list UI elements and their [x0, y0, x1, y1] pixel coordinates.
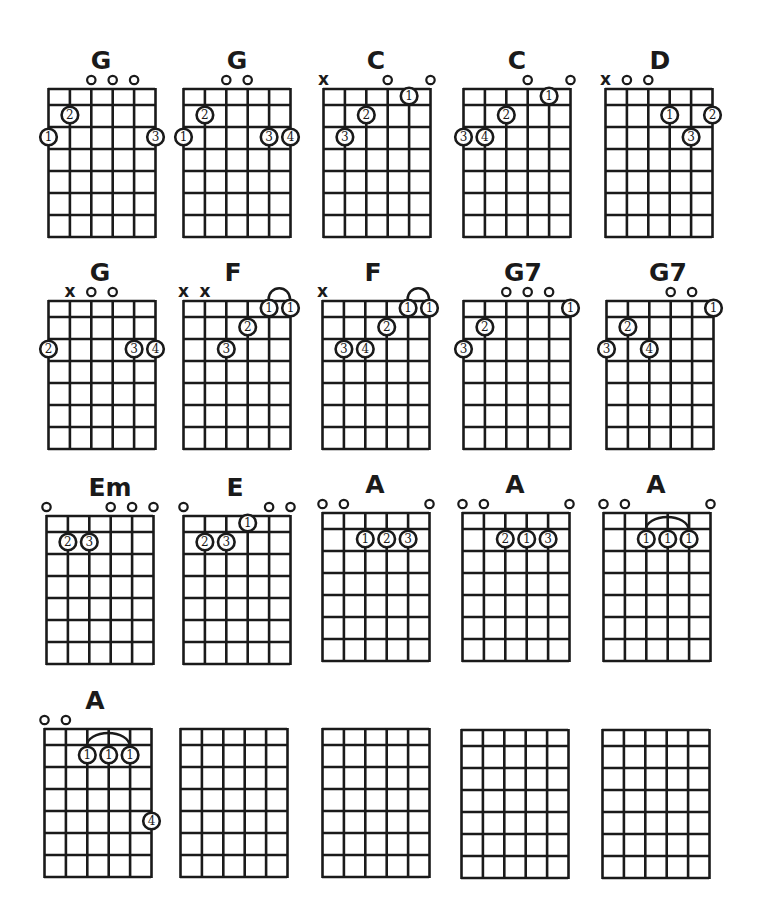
finger-dots [310, 720, 447, 888]
svg-text:1: 1 [126, 748, 134, 762]
finger-dots: 123 [36, 80, 173, 248]
finger-dot: 3 [400, 531, 417, 548]
chord-diagram: 1234 [606, 300, 746, 500]
chord-diagram: 1114 [44, 728, 184, 921]
finger-dots [168, 720, 305, 888]
finger-dots: 123 [310, 504, 447, 672]
svg-text:2: 2 [502, 108, 510, 122]
finger-dot: 3 [336, 341, 353, 358]
svg-text:2: 2 [501, 532, 509, 546]
chord-diagram [602, 729, 742, 921]
svg-text:1: 1 [426, 301, 434, 315]
svg-text:3: 3 [544, 532, 552, 546]
svg-text:1: 1 [361, 532, 369, 546]
finger-dot: 2 [358, 107, 375, 124]
chord-name: A [505, 472, 524, 497]
finger-dot: 3 [126, 341, 143, 358]
svg-text:1: 1 [45, 130, 53, 144]
chord-name: C [508, 48, 526, 73]
chord-name: G [90, 260, 111, 285]
finger-dots: 123 [171, 507, 308, 675]
finger-dots: 11234 [310, 292, 447, 460]
svg-text:1: 1 [287, 301, 295, 315]
svg-text:1: 1 [405, 89, 413, 103]
svg-text:2: 2 [64, 535, 72, 549]
svg-text:2: 2 [244, 320, 252, 334]
finger-dot: 2 [378, 319, 395, 336]
svg-text:1: 1 [567, 301, 575, 315]
finger-dot: 1 [122, 747, 139, 764]
svg-text:1: 1 [685, 532, 693, 546]
svg-text:2: 2 [383, 532, 391, 546]
svg-text:1: 1 [83, 748, 91, 762]
finger-dot: 1 [400, 300, 417, 317]
svg-text:1: 1 [180, 130, 188, 144]
finger-dot: 2 [498, 107, 515, 124]
chord-name: A [365, 472, 384, 497]
finger-dot: 1 [659, 531, 676, 548]
chord-name: Em [88, 475, 131, 500]
svg-text:3: 3 [222, 535, 230, 549]
finger-dots: 1234 [594, 292, 731, 460]
svg-text:1: 1 [666, 108, 674, 122]
finger-dots [590, 721, 727, 889]
finger-dot: 2 [197, 534, 214, 551]
svg-text:1: 1 [265, 301, 273, 315]
finger-dots: 213 [450, 504, 587, 672]
chord-name: C [367, 48, 385, 73]
svg-text:1: 1 [710, 301, 718, 315]
svg-text:3: 3 [687, 130, 695, 144]
svg-text:2: 2 [201, 535, 209, 549]
chord-name: F [224, 260, 241, 285]
finger-dot: 1 [40, 129, 57, 146]
finger-dot: 4 [282, 129, 299, 146]
finger-dot: 2 [704, 107, 721, 124]
chord-diagram: 1234 [183, 88, 323, 288]
chord-diagram: x234 [48, 300, 188, 500]
svg-text:3: 3 [85, 535, 93, 549]
svg-text:1: 1 [545, 89, 553, 103]
finger-dot: 3 [455, 341, 472, 358]
chord-diagram [461, 729, 601, 921]
finger-dot: 1 [681, 531, 698, 548]
finger-dots: 23 [34, 507, 171, 675]
svg-text:3: 3 [603, 342, 611, 356]
svg-text:4: 4 [481, 130, 489, 144]
finger-dots: 123 [451, 292, 588, 460]
finger-dot: 2 [239, 319, 256, 336]
finger-dot: 3 [683, 129, 700, 146]
svg-text:3: 3 [460, 342, 468, 356]
chord-diagram: 111 [603, 512, 743, 712]
finger-dot: 2 [40, 341, 57, 358]
finger-dots: 321 [311, 80, 448, 248]
svg-text:3: 3 [265, 130, 273, 144]
svg-text:4: 4 [287, 130, 295, 144]
chord-name: A [85, 688, 104, 713]
chord-diagram: x321 [323, 88, 463, 288]
chord-diagram: 123 [48, 88, 188, 288]
svg-text:2: 2 [201, 108, 209, 122]
svg-text:1: 1 [664, 532, 672, 546]
chord-diagram: 123 [463, 300, 603, 500]
svg-text:1: 1 [244, 516, 252, 530]
finger-dot: 1 [175, 129, 192, 146]
svg-text:2: 2 [362, 108, 370, 122]
finger-dot: 1 [401, 88, 418, 105]
finger-dot: 3 [455, 129, 472, 146]
finger-dot: 1 [79, 747, 96, 764]
finger-dot: 3 [147, 129, 164, 146]
svg-text:2: 2 [45, 342, 53, 356]
svg-text:3: 3 [341, 130, 349, 144]
finger-dot: 1 [261, 300, 278, 317]
svg-text:1: 1 [105, 748, 113, 762]
chord-diagram: 213 [462, 512, 602, 712]
finger-dot: 3 [218, 341, 235, 358]
finger-dots: 111 [591, 504, 728, 672]
finger-dot: 4 [641, 341, 658, 358]
chord-diagram: 23 [46, 515, 186, 715]
svg-text:1: 1 [642, 532, 650, 546]
finger-dot: 4 [477, 129, 494, 146]
finger-dot: 3 [598, 341, 615, 358]
finger-dot: 2 [477, 319, 494, 336]
chord-name: D [650, 48, 671, 73]
